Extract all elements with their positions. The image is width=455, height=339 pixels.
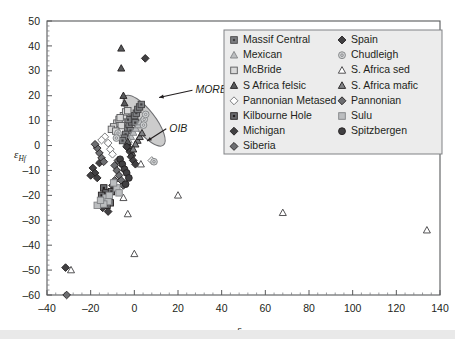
legend: Massif CentralMexicanMcBrideS Africa fel… bbox=[224, 30, 442, 154]
legend-label: Mexican bbox=[243, 48, 282, 60]
svg-text:–30: –30 bbox=[22, 214, 40, 226]
legend-label: S. Africa sed bbox=[351, 63, 410, 75]
legend-label: Spain bbox=[351, 33, 378, 45]
legend-label: Michigan bbox=[243, 124, 285, 136]
svg-text:40: 40 bbox=[216, 302, 228, 314]
svg-text:–20: –20 bbox=[82, 302, 100, 314]
legend-marker-icon bbox=[339, 52, 346, 59]
data-point bbox=[110, 180, 116, 186]
legend-label: S. Africa mafic bbox=[351, 79, 418, 91]
data-point bbox=[122, 181, 129, 188]
legend-item-pannonian-metased[interactable]: Pannonian Metased bbox=[230, 94, 337, 106]
annotation-label: OIB bbox=[169, 122, 187, 134]
svg-text:40: 40 bbox=[28, 40, 40, 52]
legend-label: McBride bbox=[243, 63, 282, 75]
svg-text:20: 20 bbox=[28, 89, 40, 101]
legend-label: Massif Central bbox=[243, 33, 310, 45]
data-point bbox=[116, 190, 122, 196]
annotation-label: MORB bbox=[195, 83, 227, 95]
data-point bbox=[423, 227, 430, 233]
data-point bbox=[140, 122, 147, 129]
footer-band bbox=[0, 330, 455, 339]
data-point bbox=[113, 135, 120, 142]
svg-text:20: 20 bbox=[172, 302, 184, 314]
data-point bbox=[97, 197, 103, 203]
legend-label: Siberia bbox=[243, 139, 276, 151]
legend-label: Spitzbergen bbox=[351, 124, 407, 136]
legend-label: Sulu bbox=[351, 109, 372, 121]
legend-label: Pannonian Metased bbox=[243, 94, 337, 106]
svg-text:50: 50 bbox=[28, 15, 40, 27]
legend-marker-icon bbox=[339, 128, 346, 135]
data-point bbox=[117, 114, 123, 120]
data-point bbox=[62, 264, 70, 272]
data-point bbox=[126, 175, 133, 182]
legend-label: Chudleigh bbox=[351, 48, 398, 60]
data-point bbox=[118, 65, 125, 71]
data-point bbox=[142, 111, 149, 118]
data-point bbox=[151, 158, 158, 165]
data-point bbox=[174, 192, 181, 198]
svg-text:100: 100 bbox=[344, 302, 362, 314]
data-point bbox=[106, 192, 112, 198]
svg-text:–60: –60 bbox=[22, 289, 40, 301]
svg-text:–20: –20 bbox=[22, 189, 40, 201]
svg-text:60: 60 bbox=[259, 302, 271, 314]
data-point bbox=[124, 210, 131, 216]
legend-item-massif-central[interactable]: Massif Central bbox=[231, 33, 310, 45]
legend-label: S Africa felsic bbox=[243, 79, 306, 91]
svg-text:0: 0 bbox=[34, 139, 40, 151]
data-point bbox=[279, 209, 286, 215]
figure-container: –40–20020406080100120140–60–50–40–30–20–… bbox=[0, 0, 455, 339]
svg-text:80: 80 bbox=[303, 302, 315, 314]
svg-text:10: 10 bbox=[28, 114, 40, 126]
data-point bbox=[131, 250, 138, 256]
data-point bbox=[118, 45, 125, 51]
y-axis-label: εHf bbox=[14, 148, 27, 163]
annotation-leader bbox=[159, 90, 192, 97]
legend-marker-icon bbox=[339, 113, 346, 120]
legend-item-s-africa-mafic[interactable]: S. Africa mafic bbox=[338, 79, 418, 91]
svg-text:120: 120 bbox=[388, 302, 406, 314]
svg-text:0: 0 bbox=[131, 302, 137, 314]
series-michigan bbox=[62, 159, 117, 271]
legend-label: Pannonian bbox=[351, 94, 401, 106]
legend-item-kilbourne-hole[interactable]: Kilbourne Hole bbox=[231, 109, 312, 121]
data-point bbox=[63, 291, 71, 299]
data-point bbox=[125, 107, 131, 113]
svg-text:30: 30 bbox=[28, 64, 40, 76]
svg-text:–40: –40 bbox=[22, 239, 40, 251]
scatter-plot-svg: –40–20020406080100120140–60–50–40–30–20–… bbox=[0, 0, 455, 339]
svg-text:140: 140 bbox=[431, 302, 449, 314]
svg-text:–10: –10 bbox=[22, 164, 40, 176]
svg-text:–40: –40 bbox=[38, 302, 56, 314]
svg-text:–50: –50 bbox=[22, 264, 40, 276]
data-point bbox=[141, 55, 149, 63]
legend-label: Kilbourne Hole bbox=[243, 109, 312, 121]
legend-marker-icon bbox=[231, 67, 238, 74]
